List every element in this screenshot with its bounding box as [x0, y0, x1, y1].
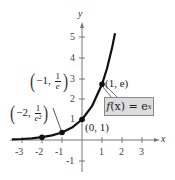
point-label-0: (0, 1): [85, 122, 109, 133]
y-tick-label: 4: [70, 53, 75, 63]
point-label-neg2: (−2, 1e²): [9, 102, 50, 124]
x-tick-label: 1: [99, 147, 104, 157]
point-neg2: [39, 134, 45, 140]
x-axis-arrow-icon: [154, 138, 160, 142]
point-neg1: [59, 130, 65, 136]
y-axis-label: y: [78, 9, 82, 19]
y-tick-label: -1: [66, 156, 74, 166]
function-label-box: f(x) = ex: [104, 97, 154, 116]
y-tick-label: 5: [70, 32, 75, 42]
callout-line-neg1: [53, 108, 61, 130]
point-label-1: (1, e): [105, 78, 128, 89]
point-label-neg1: (−1, 1e): [29, 70, 69, 92]
x-tick-label: 3: [139, 147, 144, 157]
y-tick-label: 1: [70, 114, 75, 124]
x-tick-label: -3: [15, 147, 23, 157]
x-tick-label: 2: [119, 147, 124, 157]
y-tick-label: 3: [70, 74, 75, 84]
point-1: [99, 82, 105, 88]
x-tick-label: -1: [55, 147, 63, 157]
y-tick-label: 2: [70, 94, 75, 104]
exponential-chart: [0, 0, 175, 180]
x-axis-label: x: [161, 134, 165, 144]
y-axis-arrow-icon: [80, 22, 84, 28]
point-0: [79, 117, 85, 123]
x-tick-label: -2: [35, 147, 43, 157]
